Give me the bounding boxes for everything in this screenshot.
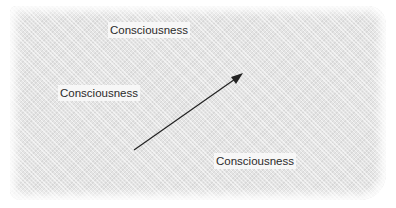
diagram-canvas: Consciousness Consciousness Consciousnes… bbox=[0, 0, 396, 208]
arrow-icon bbox=[0, 0, 396, 208]
